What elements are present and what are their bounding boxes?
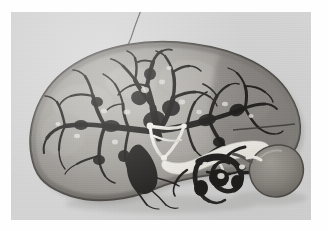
specimen-illustration (11, 12, 311, 220)
specimen-photograph (11, 12, 311, 220)
figure-caption (11, 221, 311, 230)
figure-frame (0, 0, 328, 231)
